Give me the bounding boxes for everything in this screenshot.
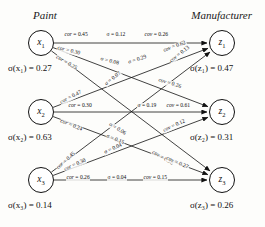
node-label-x3: x3 — [37, 174, 44, 186]
node-subscript-x1: 1 — [41, 42, 44, 49]
node-subscript-z3: 3 — [222, 179, 225, 186]
edge-x1-z2 — [53, 48, 208, 107]
node-x3[interactable]: x3 — [28, 167, 54, 193]
node-subscript-z1: 1 — [222, 42, 225, 49]
node-x2[interactable]: x2 — [28, 99, 54, 125]
node-label-x1: x1 — [37, 37, 44, 49]
edge-label-x2-z2-cov: cov = 0.61 — [166, 103, 191, 109]
diagram-canvas: Paint Manufacturer x1σ(x₁) = 0.27x2σ(x₂)… — [0, 0, 265, 227]
edge-label-x3-z3-cor: cor = 0.26 — [66, 175, 90, 181]
edge-label-x3-z3-cov: cov = 0.15 — [143, 175, 168, 181]
edge-label-x1-z1-cov: cov = 0.26 — [144, 32, 169, 38]
node-label-z1: z1 — [219, 37, 226, 49]
edge-label-x1-z1-sigma: σ = 0.12 — [106, 32, 126, 38]
node-subscript-x3: 3 — [41, 179, 44, 186]
edge-label-x2-z2-sigma: σ = 0.19 — [137, 103, 157, 109]
node-z2[interactable]: z2 — [209, 99, 235, 125]
node-subscript-x2: 2 — [41, 111, 44, 118]
node-z3[interactable]: z3 — [209, 167, 235, 193]
node-z1[interactable]: z1 — [209, 30, 235, 56]
node-x1[interactable]: x1 — [28, 30, 54, 56]
node-label-z2: z2 — [219, 106, 226, 118]
edge-label-x2-z2-cor: cor = 0.30 — [68, 103, 92, 109]
node-subscript-z2: 2 — [222, 111, 225, 118]
edge-label-x1-z1-cor: cor = 0.45 — [64, 32, 88, 38]
node-label-x2: x2 — [37, 106, 44, 118]
node-label-z3: z3 — [219, 174, 226, 186]
edge-label-x3-z3-sigma: σ = 0.04 — [107, 175, 127, 181]
